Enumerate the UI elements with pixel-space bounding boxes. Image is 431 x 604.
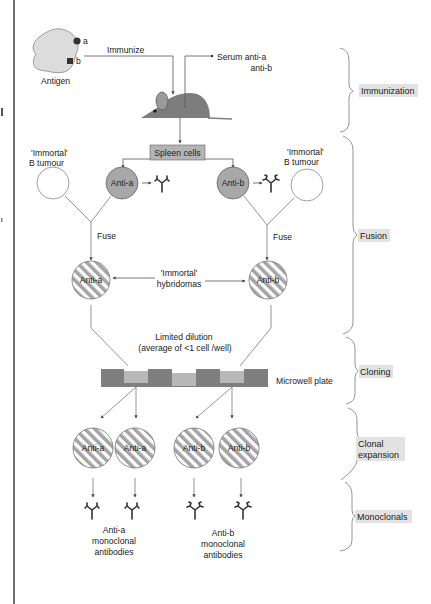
tumour-right-label-line1: 'Immortal' xyxy=(287,147,324,157)
spleen-to-anti-b-arrow xyxy=(205,159,233,168)
mouse xyxy=(141,92,232,119)
mouse-ear xyxy=(156,92,168,110)
left-margin-mark-2 xyxy=(1,218,3,222)
fuse-left-label: Fuse xyxy=(97,231,116,241)
fuse-left-lines xyxy=(65,196,111,260)
tumour-left-label-line2: B tumour xyxy=(29,158,64,168)
mouse-tail xyxy=(208,118,232,119)
mouse-eye xyxy=(153,109,156,112)
immunize-arrow xyxy=(84,56,173,94)
stage-clonal-expansion-label-line1: Clonal xyxy=(358,439,384,449)
monoclonal-b-label-line3: antibodies xyxy=(203,550,242,560)
epitope-b-label: b xyxy=(76,56,81,66)
monoclonal-a-label-line3: antibodies xyxy=(94,547,133,557)
tumour-left-cell xyxy=(37,167,69,199)
hybridomas-label-line2: hybridomas xyxy=(157,279,201,289)
stage-cloning: Cloning xyxy=(359,365,393,378)
hybridoma-anti-a-label: Anti-a xyxy=(80,275,103,285)
left-margin-mark-1 xyxy=(1,108,3,116)
clone-3: Anti-b xyxy=(174,428,214,468)
b-cell-anti-a-label: Anti-a xyxy=(111,178,134,188)
fuse-right-lines xyxy=(244,196,294,260)
tumour-left-label-line1: 'Immortal' xyxy=(31,148,68,158)
monoclonal-antibody-b2-icon xyxy=(235,502,251,519)
clone-2: Anti-a xyxy=(115,428,155,468)
stage-clonal-expansion-label-line2: expansion xyxy=(358,450,399,460)
stage-monoclonals-label: Monoclonals xyxy=(357,512,408,522)
antibody-b-icon xyxy=(263,175,279,192)
antigen-shape xyxy=(33,29,78,73)
hybridoma-anti-b-label: Anti-b xyxy=(257,275,280,285)
brace-monoclonals xyxy=(340,482,355,551)
monoclonal-antibody-b1-icon xyxy=(187,502,203,519)
plate-gap-1 xyxy=(124,366,148,371)
monoclonal-b-label-line1: Anti-b xyxy=(212,528,235,538)
stage-immunization: Immunization xyxy=(359,84,418,97)
serum-label-line2: anti-b xyxy=(251,63,273,73)
mouse-body xyxy=(141,93,210,118)
well-2 xyxy=(172,373,196,386)
hybridoma-diagram: a b Antigen Immunize Serum anti-a anti-b… xyxy=(0,0,431,604)
antibody-a-icon xyxy=(155,176,169,192)
microwell-plate-label: Microwell plate xyxy=(276,376,333,386)
stage-cloning-label: Cloning xyxy=(360,367,391,377)
clone-label: Anti-a xyxy=(124,443,147,453)
well-1-to-clone-1-arrow xyxy=(101,387,136,418)
immunize-label: Immunize xyxy=(107,45,144,55)
stage-immunization-label: Immunization xyxy=(361,86,415,96)
stage-clonal-expansion: Clonal expansion xyxy=(356,437,405,461)
brace-cloning xyxy=(346,337,358,404)
monoclonal-antibody-a2-icon xyxy=(125,503,139,519)
monoclonal-antibody-a1-icon xyxy=(85,503,99,519)
spleen-cells-label: Spleen cells xyxy=(154,148,200,158)
stage-fusion: Fusion xyxy=(358,229,390,242)
monoclonal-a-label-line2: monoclonal xyxy=(92,536,136,546)
well-3 xyxy=(220,371,244,383)
clone-label: Anti-b xyxy=(228,443,251,453)
microwell-plate xyxy=(101,366,268,387)
plate-gap-2 xyxy=(172,366,196,373)
monoclonal-a-label-line1: Anti-a xyxy=(103,525,126,535)
spleen-to-anti-a-arrow xyxy=(123,159,150,168)
clone-1: Anti-a xyxy=(73,428,113,468)
brace-immunization xyxy=(340,48,353,132)
plate-gap-3 xyxy=(220,366,244,371)
stage-monoclonals: Monoclonals xyxy=(355,510,412,523)
tumour-right-cell xyxy=(291,169,323,201)
clone-label: Anti-a xyxy=(82,443,105,453)
hybridomas-label-line1: 'Immortal' xyxy=(161,268,198,278)
b-cell-anti-b-label: Anti-b xyxy=(222,178,245,188)
clone-label: Anti-b xyxy=(183,443,206,453)
well-1 xyxy=(124,371,148,383)
fuse-right-label: Fuse xyxy=(273,232,292,242)
serum-label-line1: Serum anti-a xyxy=(217,52,266,62)
well-3-to-clone-3-arrow xyxy=(196,387,232,418)
dilution-label-line2: (average of <1 cell /well) xyxy=(138,343,232,353)
antigen-label: Antigen xyxy=(41,76,70,86)
clone-4: Anti-b xyxy=(219,428,259,468)
brace-fusion xyxy=(343,136,357,334)
epitope-b-icon xyxy=(67,58,73,64)
epitope-a-icon xyxy=(73,37,80,44)
tumour-right-label-line2: B tumour xyxy=(284,157,319,167)
monoclonal-b-label-line2: monoclonal xyxy=(201,539,245,549)
stage-fusion-label: Fusion xyxy=(360,231,387,241)
antigen: a b Antigen xyxy=(33,29,88,86)
serum-dot xyxy=(211,55,213,57)
dilution-label-line1: Limited dilution xyxy=(155,332,213,342)
epitope-a-label: a xyxy=(83,36,88,46)
